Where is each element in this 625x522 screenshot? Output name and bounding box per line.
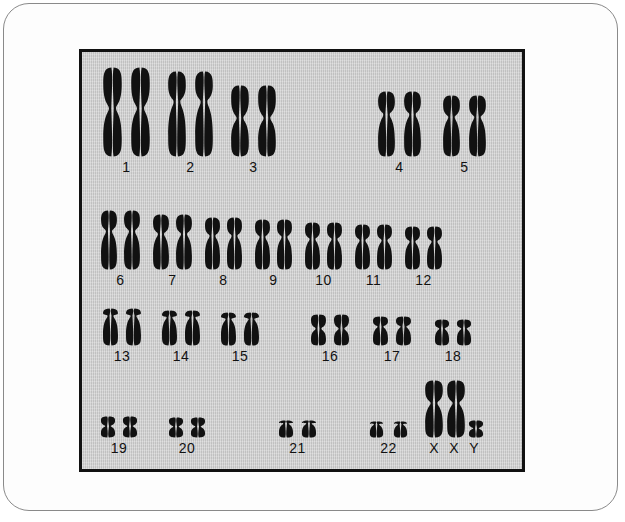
chromosome[interactable] [456,318,472,347]
chromosome[interactable] [301,419,317,439]
chromosome[interactable] [278,419,294,439]
chromosome-glyph [377,90,396,158]
chromosome[interactable] [393,420,408,439]
chromosome-label: 7 [168,273,176,287]
chromosome[interactable] [130,66,151,158]
chromosome[interactable] [446,379,466,439]
chromosome-group-2[interactable]: 2 [167,70,214,174]
chromosome[interactable] [468,94,487,158]
chromosome[interactable] [404,225,421,271]
chromosome-glyph [404,225,421,271]
chromosome[interactable] [122,415,138,439]
chromosome-group-11[interactable]: 11 [354,223,393,287]
chromosome-pair [168,416,206,439]
chromosome[interactable] [304,221,321,271]
chromosome-label: 2 [186,160,194,174]
chromosome-pair [161,309,201,347]
chromosome[interactable] [100,415,116,439]
chromosome[interactable] [372,315,389,347]
chromosome-group-16[interactable]: 16 [310,313,350,363]
chromosome-glyph [276,218,293,271]
chromosome-group-15[interactable]: 15 [220,311,260,363]
chromosome[interactable] [257,84,277,158]
chromosome-group-14[interactable]: 14 [161,309,201,363]
chromosome-glyph [456,318,472,347]
chromosome[interactable] [468,419,484,439]
chromosome-pair [204,216,243,271]
chromosome[interactable] [226,216,243,271]
chromosome-glyph [152,213,170,271]
chromosome-group-7[interactable]: 7 [152,213,193,287]
chromosome-group-19[interactable]: 19 [100,415,138,455]
chromosome[interactable] [123,209,141,271]
chromosome-group-17[interactable]: 17 [372,315,412,363]
chromosome[interactable] [442,94,461,158]
chromosome-label: 11 [366,273,382,287]
chromosome-glyph [130,66,151,158]
chromosome[interactable] [194,70,214,158]
chromosome-pair [278,419,317,439]
chromosome[interactable] [369,420,384,439]
chromosome[interactable] [403,90,422,158]
chromosome[interactable] [102,66,123,158]
chromosome[interactable] [434,318,450,347]
chromosome-glyph [168,416,184,439]
chromosome-glyph [243,311,260,347]
chromosome-glyph [403,90,422,158]
chromosome[interactable] [354,223,371,271]
chromosome[interactable] [376,223,393,271]
chromosome-glyph [468,419,484,439]
chromosome[interactable] [161,309,178,347]
chromosome-glyph [354,223,371,271]
chromosome[interactable] [190,416,206,439]
chromosome[interactable] [220,311,237,347]
chromosome[interactable] [125,307,142,347]
chromosome[interactable] [152,213,170,271]
chromosome-group-sex[interactable]: XXY [424,379,484,455]
chromosome-glyph [257,84,277,158]
chromosome[interactable] [184,309,201,347]
chromosome-pair [220,311,260,347]
sex-chromosome-label: X [449,441,458,455]
chromosome[interactable] [326,221,343,271]
chromosome-group-9[interactable]: 9 [254,218,293,287]
chromosome-group-18[interactable]: 18 [434,318,472,363]
chromosome-glyph [393,420,408,439]
chromosome-pair [102,66,151,158]
chromosome[interactable] [175,213,193,271]
chromosome-group-22[interactable]: 22 [369,420,408,455]
chromosome[interactable] [377,90,396,158]
chromosome-group-6[interactable]: 6 [100,209,141,287]
chromosome-label: 12 [415,273,432,287]
chromosome-group-13[interactable]: 13 [102,307,142,363]
chromosome[interactable] [276,218,293,271]
chromosome-group-3[interactable]: 3 [230,84,277,174]
chromosome[interactable] [167,70,187,158]
chromosome-glyph [424,379,444,439]
chromosome[interactable] [102,307,119,347]
chromosome[interactable] [230,84,250,158]
chromosome-group-10[interactable]: 10 [304,221,343,287]
chromosome-group-5[interactable]: 5 [442,94,487,174]
chromosome-group-21[interactable]: 21 [278,419,317,455]
chromosome[interactable] [426,225,443,271]
chromosome-glyph [102,307,119,347]
chromosome[interactable] [333,313,350,347]
chromosome[interactable] [168,416,184,439]
chromosome-group-20[interactable]: 20 [168,416,206,455]
chromosome[interactable] [243,311,260,347]
chromosome-label: 21 [289,441,306,455]
chromosome[interactable] [395,315,412,347]
chromosome-label: 9 [269,273,277,287]
chromosome-group-12[interactable]: 12 [404,225,443,287]
chromosome[interactable] [204,216,221,271]
chromosome-group-4[interactable]: 4 [377,90,422,174]
chromosome[interactable] [310,313,327,347]
chromosome[interactable] [424,379,444,439]
chromosome[interactable] [254,218,271,271]
chromosome-group-1[interactable]: 1 [102,66,151,174]
chromosome[interactable] [100,209,118,271]
chromosome-glyph [122,415,138,439]
chromosome-group-8[interactable]: 8 [204,216,243,287]
chromosome-row-4: 19 20 21 22 XXY [82,377,522,455]
